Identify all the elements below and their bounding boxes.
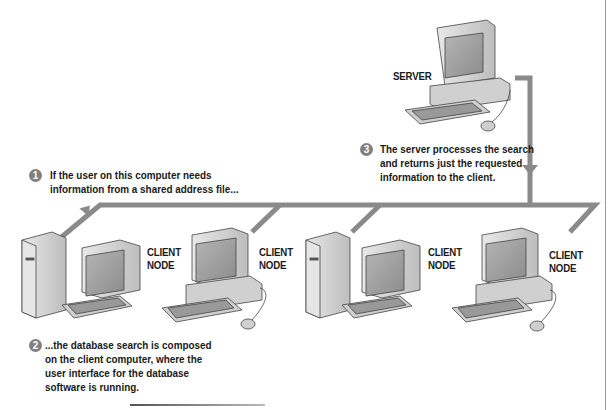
callout-line: on the client computer, where the [45,352,212,366]
step-number: 3 [364,144,370,155]
client-node-label-line2: NODE [428,259,481,272]
step-2-badge: 2 [29,339,42,352]
callout-line: ...the database search is composed [45,338,212,352]
client-node-4-computer [452,228,556,331]
callout-line: user interface for the database [45,366,212,380]
callout-line: information to the client. [380,170,534,184]
callout-line: software is running. [45,380,212,394]
callout-line: and returns just the requested [380,156,534,170]
client-node-label-line1: CLIENT [259,246,312,259]
step-3-callout: The server processes the search and retu… [380,142,534,184]
client-node-4-label: CLIENT NODE [549,249,602,275]
client-server-diagram: SERVER CLIENT NODE CLIENT NODE CLIENT NO… [0,0,613,410]
step-3-badge: 3 [360,143,373,156]
step-1-callout: If the user on this computer needs infor… [50,168,239,196]
callout-line: The server processes the search [380,142,534,156]
callout-line: If the user on this computer needs [50,168,239,182]
step-2-callout: ...the database search is composed on th… [45,338,212,394]
step-number: 1 [33,170,39,181]
bottom-rule-divider [130,404,265,406]
client-node-label-line1: CLIENT [147,246,200,259]
client-node-label-line2: NODE [259,259,312,272]
client-node-label-line1: CLIENT [428,246,481,259]
page-edge-divider [605,0,606,410]
step-1-badge: 1 [29,169,42,182]
client-node-2-label: CLIENT NODE [259,246,312,272]
client-node-label-line2: NODE [147,259,200,272]
callout-line: information from a shared address file..… [50,182,239,196]
client-node-3-label: CLIENT NODE [428,246,481,272]
server-label-text: SERVER [393,70,432,82]
step-number: 2 [33,340,39,351]
client-node-2-computer [162,228,266,329]
client-node-label-line1: CLIENT [549,249,602,262]
server-label: SERVER [393,70,432,83]
client-node-label-line2: NODE [549,262,602,275]
client-node-3-computer [306,232,420,318]
client-node-1-computer [22,232,140,318]
client-node-1-label: CLIENT NODE [147,246,200,272]
